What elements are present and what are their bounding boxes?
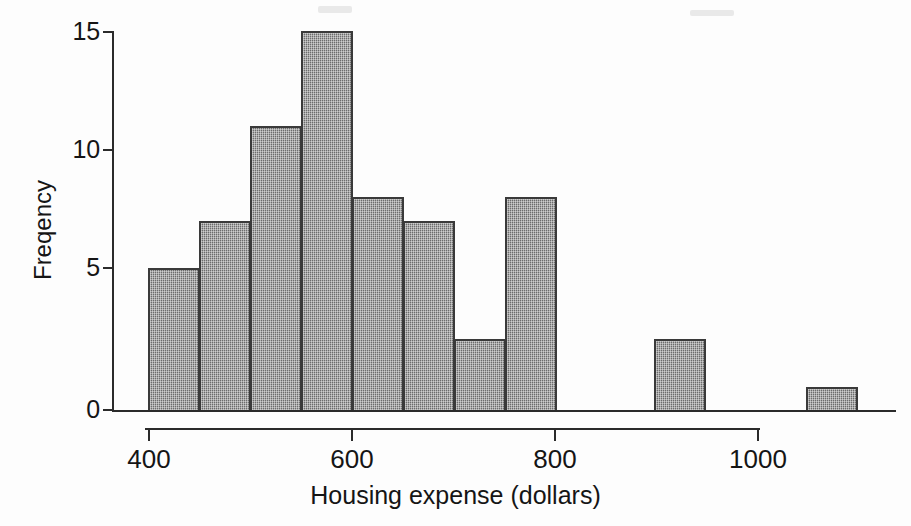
x-tick-800: [554, 428, 556, 441]
histogram-figure: 15 10 5 0 Freqency 400 600 800 1000 Hous…: [0, 0, 911, 526]
x-tick-label-800: 800: [500, 445, 610, 473]
y-tick-label-15: 15: [54, 19, 100, 44]
x-axis-baseline: [112, 410, 896, 412]
x-tick-1000: [757, 428, 759, 441]
x-axis-title: Housing expense (dollars): [0, 482, 911, 509]
bar-500-550: [250, 126, 302, 412]
x-tick-400: [148, 428, 150, 441]
x-tick-label-600: 600: [297, 445, 407, 473]
bar-550-600: [301, 31, 353, 412]
plot-area: 15 10 5 0 Freqency 400 600 800 1000 Hous…: [0, 0, 911, 526]
x-tick-label-400: 400: [94, 445, 204, 473]
y-axis-line: [112, 31, 114, 411]
bar-900-950: [654, 339, 706, 412]
bar-400-450: [148, 268, 200, 412]
x-tick-600: [351, 428, 353, 441]
bar-750-800: [505, 197, 557, 412]
y-tick-5: [103, 267, 113, 269]
y-axis-title: Freqency: [31, 125, 55, 335]
bar-700-750: [454, 339, 506, 412]
x-tick-label-1000: 1000: [703, 445, 813, 473]
y-tick-10: [103, 149, 113, 151]
bar-600-650: [352, 197, 404, 412]
x-axis-ruler: [145, 428, 760, 430]
bar-1050-1100: [806, 387, 858, 412]
y-tick-label-0: 0: [54, 397, 100, 422]
bar-650-700: [403, 221, 455, 412]
y-tick-15: [103, 31, 113, 33]
bar-450-500: [199, 221, 251, 412]
y-tick-label-10: 10: [54, 137, 100, 162]
y-tick-label-5: 5: [54, 255, 100, 280]
